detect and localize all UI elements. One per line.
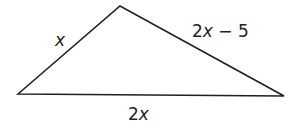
triangle-diagram: x 2x − 5 2x [0, 0, 295, 125]
right-side-label: 2x − 5 [192, 21, 249, 41]
base-label: 2x [128, 104, 150, 124]
triangle-shape [18, 6, 284, 96]
left-side-label: x [54, 30, 66, 50]
triangle-figure: x 2x − 5 2x [0, 0, 295, 125]
